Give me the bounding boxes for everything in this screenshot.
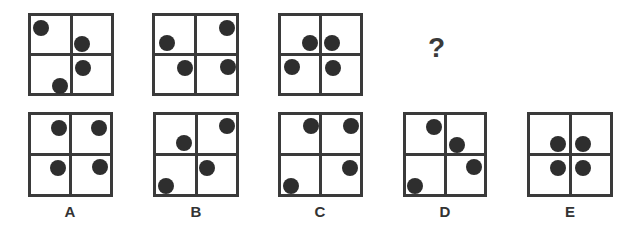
dot-icon [199, 160, 215, 176]
dot-icon [324, 35, 340, 51]
dot-icon [407, 178, 423, 194]
dot-icon [575, 136, 591, 152]
dot-icon [284, 59, 300, 75]
grid-divider-horizontal [281, 53, 360, 56]
dot-icon [219, 20, 235, 36]
grid-divider-horizontal [31, 53, 111, 56]
question-mark: ? [428, 32, 445, 64]
dot-icon [176, 135, 192, 151]
dot-icon [466, 159, 482, 175]
option-label-c: C [310, 203, 330, 220]
grid-divider-horizontal [156, 153, 236, 156]
option-label-d: D [435, 203, 455, 220]
dot-icon [33, 20, 49, 36]
dot-icon [550, 136, 566, 152]
dot-icon [343, 118, 359, 134]
dot-icon [75, 60, 91, 76]
dot-icon [426, 119, 442, 135]
dot-icon [283, 178, 299, 194]
option-label-a: A [60, 203, 80, 220]
dot-icon [219, 118, 235, 134]
dot-icon [220, 59, 236, 75]
grid-divider-horizontal [31, 153, 110, 156]
dot-icon [303, 118, 319, 134]
grid-divider-horizontal [281, 153, 360, 156]
dot-icon [550, 160, 566, 176]
dot-icon [74, 36, 90, 52]
option-label-e: E [560, 203, 580, 220]
grid-divider-horizontal [530, 153, 610, 156]
option-label-b: B [186, 203, 206, 220]
dot-icon [302, 35, 318, 51]
dot-icon [92, 159, 108, 175]
dot-icon [158, 178, 174, 194]
grid-divider-horizontal [155, 53, 236, 56]
dot-icon [50, 160, 66, 176]
dot-icon [449, 137, 465, 153]
dot-icon [575, 160, 591, 176]
dot-icon [177, 60, 193, 76]
dot-icon [159, 35, 175, 51]
grid-divider-horizontal [406, 153, 484, 156]
dot-icon [51, 120, 67, 136]
option-panel-e[interactable] [527, 112, 613, 197]
sequence-panel-3 [278, 13, 363, 96]
dot-icon [325, 60, 341, 76]
dot-icon [342, 160, 358, 176]
dot-icon [91, 120, 107, 136]
dot-icon [52, 78, 68, 94]
